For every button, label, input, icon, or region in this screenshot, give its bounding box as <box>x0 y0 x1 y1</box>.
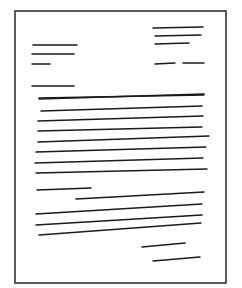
text-line <box>41 106 202 111</box>
text-line <box>36 147 206 152</box>
text-line <box>153 27 203 28</box>
letter-diagram <box>0 0 242 288</box>
sender-address-lines <box>153 27 203 44</box>
closing-lines <box>142 243 185 247</box>
text-line <box>39 223 201 235</box>
date-lines <box>155 63 204 64</box>
text-line <box>37 188 91 190</box>
text-line <box>155 35 201 36</box>
signature-lines <box>153 257 200 261</box>
text-line <box>76 192 204 199</box>
text-line <box>153 257 200 261</box>
text-line <box>155 43 189 44</box>
text-line <box>36 204 202 214</box>
recipient-address-lines <box>32 45 77 64</box>
text-line <box>38 136 209 142</box>
text-line <box>39 94 204 99</box>
text-line <box>38 116 203 121</box>
body-paragraph-1-lines <box>35 94 209 173</box>
text-lines <box>32 27 209 261</box>
text-line <box>35 158 203 163</box>
text-line <box>36 169 207 173</box>
text-line <box>36 215 202 225</box>
text-line <box>38 127 202 131</box>
body-paragraph-2-lines <box>36 188 204 235</box>
text-line <box>142 243 185 247</box>
text-line <box>155 63 175 64</box>
